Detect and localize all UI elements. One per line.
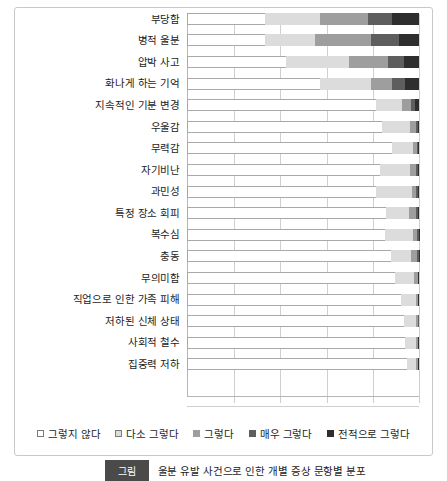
bar-segment[interactable] [368, 13, 392, 25]
bar-segment[interactable] [418, 121, 419, 133]
stacked-bar[interactable] [187, 34, 419, 46]
bar-cell [187, 159, 432, 181]
bar-segment[interactable] [320, 13, 368, 25]
stacked-bar[interactable] [187, 13, 419, 25]
bar-segment[interactable] [265, 13, 321, 25]
bar-segment[interactable] [187, 250, 391, 262]
bar-segment[interactable] [187, 315, 404, 327]
bar-segment[interactable] [418, 337, 419, 349]
bar-cell [187, 332, 432, 354]
stacked-bar[interactable] [187, 142, 419, 154]
bar-segment[interactable] [371, 78, 392, 90]
category-label: 지속적인 기분 변경 [15, 100, 187, 111]
bar-segment[interactable] [382, 121, 410, 133]
bar-segment[interactable] [187, 186, 376, 198]
bar-segment[interactable] [418, 272, 419, 284]
bar-segment[interactable] [392, 78, 405, 90]
stacked-bar[interactable] [187, 121, 419, 133]
bar-segment[interactable] [395, 272, 414, 284]
bar-segment[interactable] [405, 78, 419, 90]
bar-segment[interactable] [187, 56, 286, 68]
bar-segment[interactable] [349, 56, 387, 68]
bar-segment[interactable] [385, 229, 413, 241]
bar-segment[interactable] [418, 207, 419, 219]
bar-segment[interactable] [286, 56, 350, 68]
stacked-bar[interactable] [187, 78, 419, 90]
bar-segment[interactable] [187, 13, 265, 25]
bar-segment[interactable] [415, 99, 418, 111]
category-label: 압박 사고 [15, 57, 187, 68]
stacked-bar[interactable] [187, 99, 419, 111]
bar-segment[interactable] [404, 315, 416, 327]
bar-segment[interactable] [315, 34, 372, 46]
figure-caption: 그림 울분 유발 사건으로 인한 개별 증상 문항별 분포 [0, 459, 447, 481]
bar-segment[interactable] [265, 34, 315, 46]
legend-item[interactable]: 매우 그렇다 [249, 426, 312, 441]
bar-segment[interactable] [320, 78, 371, 90]
bar-segment[interactable] [405, 337, 416, 349]
bar-segment[interactable] [187, 34, 265, 46]
bar-segment[interactable] [399, 34, 419, 46]
stacked-bar[interactable] [187, 315, 419, 327]
stacked-bar[interactable] [187, 294, 419, 306]
stacked-bar[interactable] [187, 250, 419, 262]
bar-segment[interactable] [409, 207, 416, 219]
bar-cell [187, 51, 432, 73]
stacked-bar[interactable] [187, 56, 419, 68]
bar-segment[interactable] [407, 358, 416, 370]
bar-segment[interactable] [392, 142, 413, 154]
bar-segment[interactable] [187, 294, 401, 306]
bar-segment[interactable] [402, 99, 411, 111]
legend-item[interactable]: 그렇다 [193, 426, 233, 441]
bar-segment[interactable] [401, 294, 416, 306]
legend-swatch-icon [249, 430, 256, 437]
chart-row: 직업으로 인한 가족 피해 [15, 289, 432, 311]
legend-item[interactable]: 다소 그렇다 [115, 426, 178, 441]
bar-segment[interactable] [418, 164, 419, 176]
bar-segment[interactable] [187, 78, 320, 90]
bar-segment[interactable] [187, 337, 405, 349]
stacked-bar[interactable] [187, 272, 419, 284]
category-label: 복수심 [15, 229, 187, 240]
bar-cell [187, 310, 432, 332]
bar-segment[interactable] [187, 142, 392, 154]
category-label: 집중력 저하 [15, 359, 187, 370]
bar-segment[interactable] [187, 207, 386, 219]
legend-swatch-icon [115, 430, 122, 437]
bar-cell [187, 116, 432, 138]
bar-segment[interactable] [376, 99, 402, 111]
bar-segment[interactable] [380, 164, 410, 176]
bar-segment[interactable] [392, 13, 419, 25]
bar-segment[interactable] [418, 358, 419, 370]
stacked-bar[interactable] [187, 229, 419, 241]
bar-segment[interactable] [187, 164, 380, 176]
bar-segment[interactable] [418, 294, 419, 306]
bar-segment[interactable] [386, 207, 410, 219]
bar-segment[interactable] [187, 358, 407, 370]
bar-segment[interactable] [376, 186, 412, 198]
bar-segment[interactable] [187, 99, 376, 111]
chart-row: 병적 울분 [15, 30, 432, 52]
bar-segment[interactable] [388, 56, 404, 68]
bar-segment[interactable] [418, 142, 419, 154]
bar-segment[interactable] [418, 315, 419, 327]
bar-cell [187, 224, 432, 246]
stacked-bar[interactable] [187, 358, 419, 370]
bar-segment[interactable] [418, 186, 419, 198]
legend-label: 그렇다 [204, 426, 233, 441]
bar-segment[interactable] [371, 34, 399, 46]
category-label: 부당함 [15, 14, 187, 25]
bar-segment[interactable] [187, 272, 395, 284]
stacked-bar[interactable] [187, 207, 419, 219]
stacked-bar[interactable] [187, 186, 419, 198]
bar-segment[interactable] [187, 121, 382, 133]
bar-cell [187, 138, 432, 160]
bar-segment[interactable] [391, 250, 411, 262]
bar-segment[interactable] [187, 229, 385, 241]
legend-item[interactable]: 그렇지 않다 [37, 426, 100, 441]
stacked-bar[interactable] [187, 337, 419, 349]
legend-item[interactable]: 전적으로 그렇다 [327, 426, 410, 441]
stacked-bar[interactable] [187, 164, 419, 176]
category-label: 병적 울분 [15, 35, 187, 46]
bar-segment[interactable] [404, 56, 419, 68]
